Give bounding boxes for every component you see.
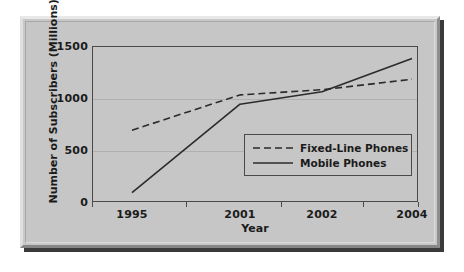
x-tick-mark-1 bbox=[186, 202, 187, 207]
y-tick-1000: 1000 bbox=[57, 92, 88, 105]
x-tick-2001: 2001 bbox=[224, 208, 255, 221]
x-tick-1995: 1995 bbox=[116, 208, 147, 221]
legend-label-fixed-line-phones: Fixed-Line Phones bbox=[295, 142, 408, 154]
y-tick-500: 500 bbox=[64, 144, 88, 157]
legend-entry-mobile-phones: Mobile Phones bbox=[251, 155, 405, 170]
solid-line-key-icon bbox=[251, 157, 295, 169]
legend-label-mobile-phones: Mobile Phones bbox=[295, 157, 386, 169]
series-line-fixed-line-phones bbox=[132, 79, 412, 130]
series-canvas bbox=[92, 46, 418, 202]
x-tick-mark-end bbox=[418, 202, 419, 207]
y-tick-0: 0 bbox=[80, 196, 88, 209]
y-axis-tick-labels: 1500 1000 500 0 bbox=[40, 46, 88, 202]
x-tick-2004: 2004 bbox=[396, 208, 427, 221]
y-tick-1500: 1500 bbox=[57, 40, 88, 53]
legend-entry-fixed-line-phones: Fixed-Line Phones bbox=[251, 140, 405, 155]
chart-plot-area: Number of Subscribers (Millions) 1500 10… bbox=[26, 22, 434, 242]
chart-figure: Number of Subscribers (Millions) 1500 10… bbox=[0, 0, 464, 272]
x-tick-mark-3 bbox=[363, 202, 364, 207]
dashed-line-key-icon bbox=[251, 142, 295, 154]
x-tick-2002: 2002 bbox=[306, 208, 337, 221]
chart-legend: Fixed-Line Phones Mobile Phones bbox=[244, 134, 412, 176]
x-tick-mark-2 bbox=[281, 202, 282, 207]
x-tick-mark-start bbox=[92, 202, 93, 207]
x-axis-tick-labels: 1995 2001 2002 2004 bbox=[92, 202, 418, 224]
x-axis-title: Year bbox=[92, 222, 418, 235]
